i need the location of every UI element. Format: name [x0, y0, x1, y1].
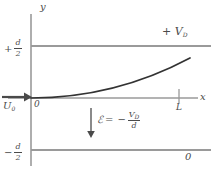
field-fraction: VDd [128, 111, 141, 130]
top-plate-position-label: +d2 [4, 39, 22, 58]
electron-trajectory-curve [31, 58, 190, 98]
initial-velocity-subscript: 0 [11, 105, 15, 112]
y-axis-label: y [40, 2, 46, 12]
bottom-plate-position-fraction: d2 [14, 143, 21, 162]
length-tick-label: L [176, 103, 182, 112]
figure-canvas: y x +d2 −d2 + VD 0 0 U0 L ℰ=−VDd [0, 0, 211, 169]
bottom-plate-position-sign: − [4, 148, 12, 158]
equals-operator: = [103, 114, 115, 125]
bottom-plate-position-numerator: d [14, 143, 21, 152]
top-plate-potential-subscript: D [183, 31, 188, 38]
top-plate-potential-text: + V [162, 25, 183, 38]
minus-operator: − [115, 114, 127, 125]
top-plate-position-fraction: d2 [14, 39, 21, 58]
top-plate-position-denominator: 2 [14, 49, 21, 58]
initial-velocity-label: U0 [3, 101, 15, 111]
field-numerator: VD [128, 111, 141, 120]
field-numerator-subscript: D [135, 113, 140, 120]
top-plate-position-numerator: d [14, 39, 21, 48]
field-direction-arrow-icon [87, 108, 95, 138]
bottom-plate-position-denominator: 2 [14, 153, 21, 162]
bottom-plate-potential-label: 0 [185, 152, 191, 162]
top-plate-potential-label: + VD [162, 26, 187, 37]
bottom-plate-position-label: −d2 [4, 143, 22, 162]
field-numerator-symbol: V [129, 110, 135, 119]
origin-label: 0 [34, 100, 40, 109]
field-equation-label: ℰ=−VDd [97, 111, 140, 130]
field-denominator: d [128, 121, 141, 130]
top-plate-position-sign: + [4, 44, 12, 54]
x-axis-label: x [200, 92, 206, 102]
